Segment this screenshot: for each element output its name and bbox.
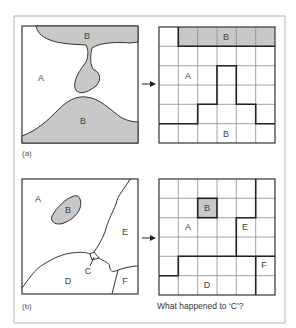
caption-a: (a)	[22, 149, 32, 158]
raster-vector-diagram: B A B (a) B A B	[0, 0, 296, 328]
label-e: E	[122, 227, 128, 237]
label-a: A	[185, 71, 191, 81]
label-b-top: B	[84, 31, 90, 41]
label-b: B	[204, 203, 210, 213]
panel-b-vector: A B E C D F	[22, 179, 138, 294]
panel-a-vector: B A B	[22, 26, 138, 143]
label-a: A	[38, 73, 44, 83]
label-d: D	[65, 276, 72, 286]
panel-b-raster-grid: B A E F D	[159, 179, 275, 295]
panel-a-raster-grid: B A B	[159, 27, 275, 143]
label-a: A	[35, 194, 41, 204]
label-f: F	[122, 276, 128, 286]
label-e: E	[242, 222, 248, 232]
label-f: F	[261, 260, 267, 270]
arrow-right-icon	[142, 81, 156, 87]
label-c: C	[85, 266, 92, 276]
label-b: B	[65, 205, 71, 215]
label-b-bottom: B	[223, 129, 229, 139]
arrow-right-icon	[142, 235, 156, 241]
label-a: A	[185, 222, 191, 232]
label-b-top: B	[223, 32, 229, 42]
label-b-bottom: B	[80, 116, 86, 126]
caption-b: (b)	[22, 302, 32, 311]
label-d: D	[204, 280, 211, 290]
question-text: What happened to ‘C’?	[157, 301, 244, 311]
